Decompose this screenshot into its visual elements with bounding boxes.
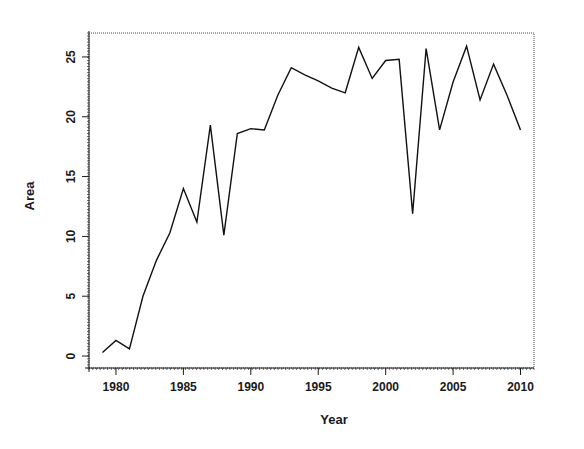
x-tick-label: 1985 bbox=[170, 380, 197, 394]
x-tick-label: 1990 bbox=[237, 380, 264, 394]
y-tick-label: 10 bbox=[64, 229, 78, 243]
y-tick-label: 25 bbox=[64, 50, 78, 64]
x-axis-title: Year bbox=[320, 412, 347, 427]
x-tick-label: 2010 bbox=[507, 380, 534, 394]
y-tick-label: 15 bbox=[64, 170, 78, 184]
y-axis-title: Area bbox=[22, 181, 37, 211]
chart-figure: 1980198519901995200020052010 0510152025 … bbox=[0, 0, 584, 449]
y-tick-label: 5 bbox=[64, 293, 78, 300]
x-tick-label: 1980 bbox=[103, 380, 130, 394]
y-tick-label: 0 bbox=[64, 352, 78, 359]
line-chart-plot: 1980198519901995200020052010 0510152025 … bbox=[0, 0, 584, 449]
y-tick-label: 20 bbox=[64, 110, 78, 124]
x-tick-label: 2005 bbox=[440, 380, 467, 394]
x-tick-label: 1995 bbox=[305, 380, 332, 394]
x-tick-label: 2000 bbox=[372, 380, 399, 394]
